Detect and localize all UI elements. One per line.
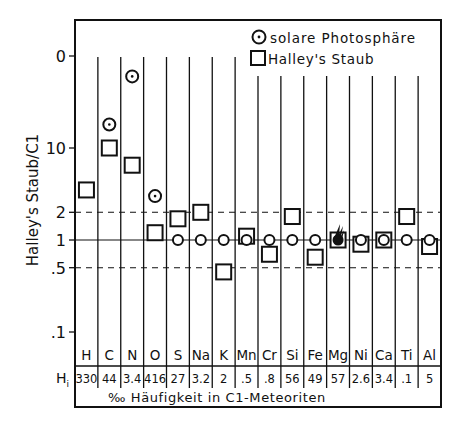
abundance-chart: 01021.5.1 Halley's Staub/C1 solare Photo… bbox=[0, 0, 455, 425]
abundance-table: H330C44N3.4O416S27Na3.2K2Mn.5Cr.8Si56Fe4… bbox=[56, 347, 436, 389]
x-axis-label: ‰ Häufigkeit in C1-Meteoriten bbox=[108, 390, 326, 405]
y-tick-label: 10 bbox=[46, 139, 66, 158]
abundance-value: 416 bbox=[144, 372, 166, 386]
abundance-value: 3.2 bbox=[192, 372, 210, 386]
element-column-dividers bbox=[98, 57, 418, 388]
halley-dust-marker bbox=[308, 250, 323, 265]
element-symbol: Cr bbox=[262, 347, 277, 363]
element-symbol: N bbox=[127, 347, 137, 363]
abundance-value: 27 bbox=[171, 372, 186, 386]
element-symbol: O bbox=[150, 347, 161, 363]
halley-dust-marker bbox=[125, 158, 140, 173]
solar-photosphere-marker bbox=[287, 235, 297, 245]
abundance-value: 57 bbox=[331, 372, 346, 386]
y-tick-label: 0 bbox=[56, 47, 66, 66]
solar-photosphere-marker bbox=[264, 235, 274, 245]
element-symbol: Na bbox=[192, 347, 210, 363]
solar-photosphere-marker bbox=[242, 235, 252, 245]
halley-dust-marker bbox=[262, 247, 277, 262]
element-symbol: Si bbox=[286, 347, 298, 363]
y-tick-label: .5 bbox=[51, 259, 66, 278]
y-tick-label: 1 bbox=[56, 231, 66, 250]
abundance-value: 49 bbox=[308, 372, 323, 386]
solar-photosphere-marker bbox=[196, 235, 206, 245]
element-symbol: Al bbox=[423, 347, 436, 363]
element-symbol: K bbox=[219, 347, 229, 363]
abundance-value: .5 bbox=[241, 372, 252, 386]
solar-photosphere-marker bbox=[310, 235, 320, 245]
halley-dust-marker bbox=[399, 209, 414, 224]
abundance-value: .1 bbox=[401, 372, 412, 386]
halley-dust-marker bbox=[216, 264, 231, 279]
legend-label-halley: Halley's Staub bbox=[268, 51, 374, 67]
solar-photosphere-marker bbox=[356, 235, 366, 245]
y-tick-label: .1 bbox=[51, 323, 66, 342]
solar-photosphere-marker bbox=[379, 235, 389, 245]
halley-dust-marker bbox=[193, 205, 208, 220]
abundance-row-label: Hi bbox=[56, 370, 69, 389]
element-symbol: Ti bbox=[400, 347, 413, 363]
abundance-value: 330 bbox=[75, 372, 97, 386]
element-symbol: Mn bbox=[236, 347, 256, 363]
abundance-value: 3.4 bbox=[123, 372, 141, 386]
solar-photosphere-marker bbox=[219, 235, 229, 245]
abundance-value: 2.6 bbox=[352, 372, 370, 386]
halley-dust-marker bbox=[285, 209, 300, 224]
element-symbol: Ca bbox=[375, 347, 393, 363]
abundance-value: 56 bbox=[285, 372, 300, 386]
element-symbol: Mg bbox=[328, 347, 348, 363]
legend-label-solar: solare Photosphäre bbox=[270, 30, 416, 46]
element-symbol: Ni bbox=[354, 347, 368, 363]
solar-photosphere-marker bbox=[425, 235, 435, 245]
abundance-value: 44 bbox=[102, 372, 117, 386]
element-symbol: S bbox=[174, 347, 183, 363]
y-tick-label: 2 bbox=[56, 203, 66, 222]
legend: solare PhotosphäreHalley's Staub bbox=[251, 30, 416, 67]
abundance-value: .8 bbox=[264, 372, 275, 386]
element-symbol: Fe bbox=[308, 347, 323, 363]
solar-photosphere-marker bbox=[173, 235, 183, 245]
y-axis: 01021.5.1 bbox=[46, 47, 75, 342]
abundance-value: 5 bbox=[426, 372, 433, 386]
halley-dust-marker bbox=[79, 182, 94, 197]
halley-dust-marker bbox=[102, 141, 117, 156]
solar-photosphere-marker bbox=[402, 235, 412, 245]
element-symbol: C bbox=[105, 347, 114, 363]
abundance-value: 3.4 bbox=[375, 372, 393, 386]
element-symbol: H bbox=[81, 347, 91, 363]
halley-dust-marker bbox=[148, 225, 163, 240]
square-symbol-icon bbox=[251, 51, 265, 65]
abundance-value: 2 bbox=[220, 372, 227, 386]
y-axis-label: Halley's Staub/C1 bbox=[24, 134, 42, 266]
halley-dust-marker bbox=[170, 211, 185, 226]
